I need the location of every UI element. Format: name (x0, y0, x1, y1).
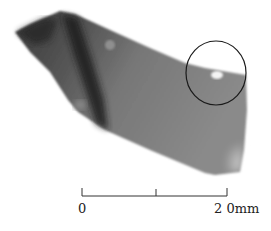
figure-canvas: 0 2 0mm (0, 0, 271, 231)
scale-label-start: 0 (78, 201, 86, 216)
artifact-photo (15, 11, 247, 175)
bright-spot (211, 71, 223, 79)
light-spot (105, 40, 115, 50)
light-patch (74, 100, 86, 110)
scale-bar: 0 2 0mm (78, 188, 259, 216)
scale-label-end: 2 0mm (214, 201, 259, 216)
faded-edge (200, 110, 247, 173)
